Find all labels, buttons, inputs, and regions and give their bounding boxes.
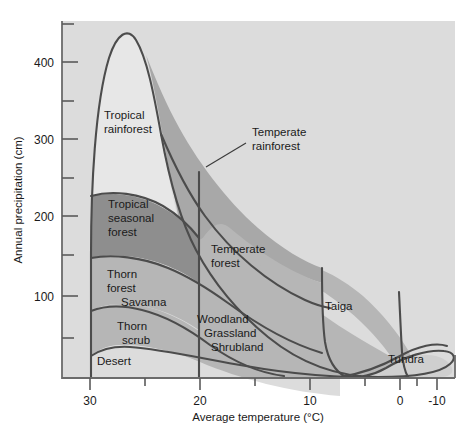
x-tick-label-10: 10 (303, 394, 317, 408)
label-tropical-rainforest-line1: Tropical (104, 109, 144, 121)
label-temperate-rainforest-line2: rainforest (252, 140, 301, 152)
x-tick-label-0: 0 (397, 394, 404, 408)
label-thorn-forest-savanna-line3: Savanna (121, 296, 167, 308)
y-tick-label-100: 100 (34, 290, 54, 304)
x-tick-label-30: 30 (83, 394, 97, 408)
label-temperate-rainforest-line1: Temperate (252, 126, 306, 138)
label-tropical-seasonal-forest-line3: forest (108, 226, 138, 238)
label-temperate-forest-line2: forest (211, 257, 241, 269)
label-wgs-line1: Woodland (197, 313, 249, 325)
y-tick-label-300: 300 (34, 133, 54, 147)
label-thorn-scrub-line2: scrub (122, 334, 150, 346)
y-tick-labels: 400 300 200 100 (34, 56, 54, 304)
whittaker-biome-diagram: 30 20 10 0 -10 400 300 200 100 Average t… (0, 0, 467, 426)
biome-chart-svg: 30 20 10 0 -10 400 300 200 100 Average t… (0, 0, 467, 426)
y-axis-title: Annual precipitation (cm) (12, 136, 24, 263)
x-tick-label-neg10: -10 (428, 394, 446, 408)
label-thorn-scrub-line1: Thorn (117, 320, 147, 332)
x-axis-title: Average temperature (°C) (192, 411, 324, 423)
label-temperate-forest-line1: Temperate (211, 243, 265, 255)
label-tropical-seasonal-forest-line2: seasonal (108, 212, 154, 224)
label-thorn-forest-savanna-line1: Thorn (107, 268, 137, 280)
label-desert: Desert (97, 355, 132, 367)
label-tropical-rainforest-line2: rainforest (104, 123, 153, 135)
x-tick-labels: 30 20 10 0 -10 (83, 394, 446, 408)
x-tick-label-20: 20 (193, 394, 207, 408)
label-tropical-seasonal-forest-line1: Tropical (108, 198, 148, 210)
y-tick-label-400: 400 (34, 56, 54, 70)
label-wgs-line3: Shrubland (211, 341, 263, 353)
label-tundra: Tundra (388, 353, 425, 365)
y-tick-label-200: 200 (34, 210, 54, 224)
label-wgs-line2: Grassland (204, 327, 256, 339)
label-taiga: Taiga (325, 300, 353, 312)
label-thorn-forest-savanna-line2: forest (107, 282, 137, 294)
